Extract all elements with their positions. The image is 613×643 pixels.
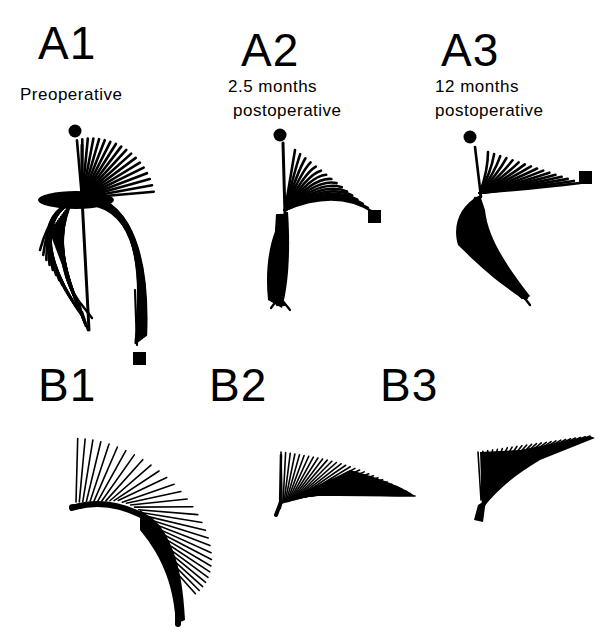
stick-figure-a3 <box>456 131 592 306</box>
end-marker-square <box>133 352 146 365</box>
stick-figure-canvas <box>0 0 613 643</box>
stick-figure-b3 <box>474 436 595 522</box>
start-marker-circle <box>274 129 287 142</box>
start-marker-circle <box>69 125 82 138</box>
stick-figure-a1 <box>38 125 154 366</box>
start-marker-circle <box>464 131 477 144</box>
stick-figure-b2 <box>276 452 415 515</box>
stick-figure-b1 <box>69 439 211 624</box>
stick-figure-a2 <box>267 129 381 311</box>
end-marker-square <box>368 210 381 223</box>
end-marker-square <box>579 171 592 184</box>
